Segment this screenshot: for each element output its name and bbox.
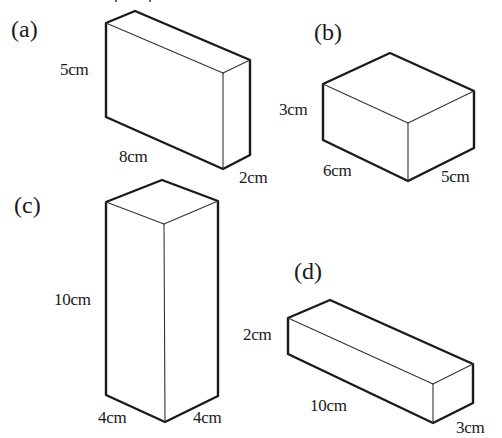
cuboid-a-inner-edge <box>223 60 250 73</box>
cuboid-c-inner-edge <box>164 224 165 422</box>
cuboid-d-inner-edge <box>288 318 433 384</box>
box-a-length-label: 8cm <box>119 148 147 165</box>
box-c-height-label: 10cm <box>54 291 91 308</box>
box-a-label: (a) <box>11 17 38 41</box>
cuboid-c-inner-edge <box>164 201 218 224</box>
box-d-width-label: 3cm <box>456 419 484 436</box>
box-a-width-label: 2cm <box>239 169 267 186</box>
box-c-width-label: 4cm <box>193 409 221 426</box>
box-a-height-label: 5cm <box>60 61 88 78</box>
cuboid-c <box>106 180 218 422</box>
box-c-length-label: 4cm <box>98 409 126 426</box>
box-c-label: (c) <box>14 193 41 217</box>
cuboid-a-outline <box>106 11 250 169</box>
cuboids-figure: (a) 5cm 8cm 2cm (b) 3cm 6cm 5cm (c) 10cm… <box>0 0 502 438</box>
cuboid-b-inner-edge <box>408 91 474 123</box>
cropped-heading-fragment <box>0 0 200 2</box>
box-b-length-label: 6cm <box>323 162 351 179</box>
box-b-width-label: 5cm <box>441 168 469 185</box>
box-b-label: (b) <box>314 20 342 44</box>
cuboid-a-inner-edge <box>106 23 223 73</box>
cuboid-c-outline <box>106 180 218 422</box>
cuboid-b-inner-edge <box>323 84 408 123</box>
cuboid-a <box>106 11 250 169</box>
box-d-height-label: 2cm <box>243 326 271 343</box>
cuboid-c-inner-edge <box>106 202 164 224</box>
box-d-length-label: 10cm <box>310 397 347 414</box>
box-d-label: (d) <box>294 259 322 283</box>
cuboid-d-inner-edge <box>433 364 473 384</box>
box-b-height-label: 3cm <box>279 101 307 118</box>
